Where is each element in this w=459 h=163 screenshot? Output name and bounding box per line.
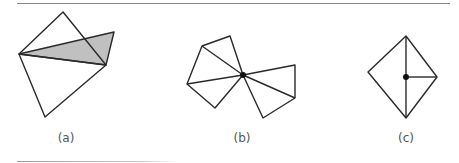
spoke <box>202 46 243 75</box>
fan-outline-right <box>243 65 295 118</box>
spoke <box>187 75 243 84</box>
bottom-rule <box>17 161 177 162</box>
panel-b-label: (b) <box>234 131 251 145</box>
panel-c-label: (c) <box>398 131 414 145</box>
panel-c-diagram <box>368 36 437 118</box>
vertex-dot-c <box>403 74 409 80</box>
panel-a-diagram <box>19 12 114 117</box>
vertex-dot-b <box>240 72 246 78</box>
spoke <box>243 75 295 98</box>
fan-outline-left <box>187 36 243 108</box>
quadrilateral <box>19 12 106 117</box>
panel-a-label: (a) <box>58 131 75 145</box>
